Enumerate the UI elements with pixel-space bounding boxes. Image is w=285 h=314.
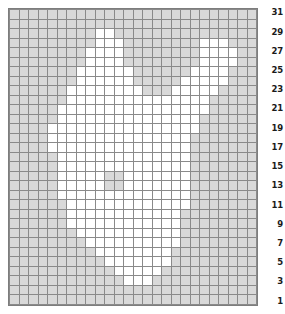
grid-cell-empty[interactable]: [19, 86, 29, 96]
grid-cell-empty[interactable]: [228, 257, 238, 267]
grid-cell-marked[interactable]: [76, 152, 86, 162]
grid-cell-empty[interactable]: [10, 38, 20, 48]
grid-cell-empty[interactable]: [48, 152, 58, 162]
grid-cell-marked[interactable]: [181, 200, 191, 210]
grid-cell-marked[interactable]: [124, 276, 134, 286]
grid-cell-empty[interactable]: [200, 162, 210, 172]
grid-cell-empty[interactable]: [19, 95, 29, 105]
grid-cell-empty[interactable]: [10, 95, 20, 105]
grid-cell-empty[interactable]: [38, 105, 48, 115]
grid-cell-marked[interactable]: [86, 57, 96, 67]
grid-cell-empty[interactable]: [143, 29, 153, 39]
grid-cell-empty[interactable]: [10, 19, 20, 29]
grid-cell-empty[interactable]: [114, 276, 124, 286]
grid-cell-empty[interactable]: [19, 29, 29, 39]
grid-cell-marked[interactable]: [76, 209, 86, 219]
grid-cell-marked[interactable]: [152, 257, 162, 267]
grid-cell-empty[interactable]: [219, 10, 229, 20]
grid-cell-marked[interactable]: [124, 67, 134, 77]
grid-cell-empty[interactable]: [10, 29, 20, 39]
grid-cell-marked[interactable]: [219, 48, 229, 58]
grid-cell-marked[interactable]: [95, 228, 105, 238]
grid-cell-marked[interactable]: [143, 276, 153, 286]
grid-cell-empty[interactable]: [238, 57, 248, 67]
grid-cell-marked[interactable]: [200, 95, 210, 105]
grid-cell-empty[interactable]: [67, 266, 77, 276]
grid-cell-empty[interactable]: [29, 247, 39, 257]
grid-cell-marked[interactable]: [67, 200, 77, 210]
grid-cell-marked[interactable]: [190, 95, 200, 105]
grid-cell-empty[interactable]: [57, 67, 67, 77]
grid-cell-empty[interactable]: [181, 219, 191, 229]
grid-cell-marked[interactable]: [76, 190, 86, 200]
grid-cell-marked[interactable]: [133, 152, 143, 162]
grid-cell-empty[interactable]: [19, 162, 29, 172]
grid-cell-empty[interactable]: [38, 95, 48, 105]
grid-cell-empty[interactable]: [209, 19, 219, 29]
grid-cell-empty[interactable]: [48, 95, 58, 105]
grid-cell-empty[interactable]: [86, 38, 96, 48]
grid-cell-empty[interactable]: [10, 276, 20, 286]
grid-cell-marked[interactable]: [143, 152, 153, 162]
grid-cell-marked[interactable]: [152, 143, 162, 153]
grid-cell-empty[interactable]: [171, 67, 181, 77]
grid-cell-marked[interactable]: [181, 171, 191, 181]
grid-cell-empty[interactable]: [67, 38, 77, 48]
grid-cell-empty[interactable]: [219, 209, 229, 219]
grid-cell-empty[interactable]: [162, 48, 172, 58]
grid-cell-empty[interactable]: [57, 10, 67, 20]
grid-cell-empty[interactable]: [247, 266, 257, 276]
grid-cell-empty[interactable]: [10, 228, 20, 238]
grid-cell-empty[interactable]: [228, 276, 238, 286]
grid-cell-marked[interactable]: [67, 219, 77, 229]
grid-cell-marked[interactable]: [162, 228, 172, 238]
grid-cell-empty[interactable]: [181, 228, 191, 238]
grid-cell-empty[interactable]: [228, 285, 238, 295]
grid-cell-empty[interactable]: [209, 247, 219, 257]
grid-cell-empty[interactable]: [38, 257, 48, 267]
grid-cell-empty[interactable]: [29, 219, 39, 229]
grid-cell-empty[interactable]: [190, 143, 200, 153]
grid-cell-marked[interactable]: [86, 76, 96, 86]
grid-cell-marked[interactable]: [133, 228, 143, 238]
grid-cell-empty[interactable]: [19, 219, 29, 229]
grid-cell-empty[interactable]: [76, 29, 86, 39]
grid-cell-empty[interactable]: [29, 114, 39, 124]
grid-cell-marked[interactable]: [171, 171, 181, 181]
grid-cell-empty[interactable]: [247, 276, 257, 286]
grid-cell-empty[interactable]: [143, 295, 153, 305]
grid-cell-empty[interactable]: [48, 219, 58, 229]
grid-cell-empty[interactable]: [19, 200, 29, 210]
grid-cell-empty[interactable]: [48, 257, 58, 267]
grid-cell-empty[interactable]: [48, 295, 58, 305]
grid-cell-empty[interactable]: [10, 105, 20, 115]
grid-cell-marked[interactable]: [105, 86, 115, 96]
grid-cell-marked[interactable]: [86, 219, 96, 229]
grid-cell-marked[interactable]: [95, 95, 105, 105]
grid-cell-empty[interactable]: [76, 57, 86, 67]
grid-cell-empty[interactable]: [57, 266, 67, 276]
grid-cell-empty[interactable]: [48, 105, 58, 115]
grid-cell-marked[interactable]: [114, 190, 124, 200]
grid-cell-marked[interactable]: [181, 105, 191, 115]
grid-cell-marked[interactable]: [114, 86, 124, 96]
grid-cell-empty[interactable]: [181, 57, 191, 67]
grid-cell-marked[interactable]: [105, 95, 115, 105]
grid-cell-empty[interactable]: [38, 133, 48, 143]
grid-cell-marked[interactable]: [114, 95, 124, 105]
grid-cell-marked[interactable]: [95, 190, 105, 200]
grid-cell-empty[interactable]: [152, 285, 162, 295]
grid-cell-empty[interactable]: [190, 285, 200, 295]
grid-cell-empty[interactable]: [29, 76, 39, 86]
grid-cell-marked[interactable]: [171, 86, 181, 96]
grid-cell-empty[interactable]: [29, 67, 39, 77]
grid-cell-empty[interactable]: [86, 266, 96, 276]
grid-cell-empty[interactable]: [152, 76, 162, 86]
grid-cell-marked[interactable]: [200, 105, 210, 115]
grid-cell-empty[interactable]: [190, 57, 200, 67]
grid-cell-empty[interactable]: [67, 285, 77, 295]
grid-cell-empty[interactable]: [228, 105, 238, 115]
grid-cell-marked[interactable]: [143, 266, 153, 276]
grid-cell-empty[interactable]: [247, 247, 257, 257]
grid-cell-marked[interactable]: [114, 124, 124, 134]
